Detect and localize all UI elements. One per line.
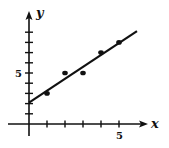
x-axis-label: x: [150, 116, 159, 131]
scatter-chart: x y 5 5: [0, 0, 169, 148]
series: [29, 31, 137, 102]
data-point: [62, 71, 68, 76]
y-tick-label-5: 5: [15, 68, 22, 79]
y-axis-label: y: [35, 5, 45, 20]
x-tick-label-5: 5: [116, 130, 123, 141]
best-fit-line: [29, 31, 137, 102]
data-point: [80, 71, 86, 76]
